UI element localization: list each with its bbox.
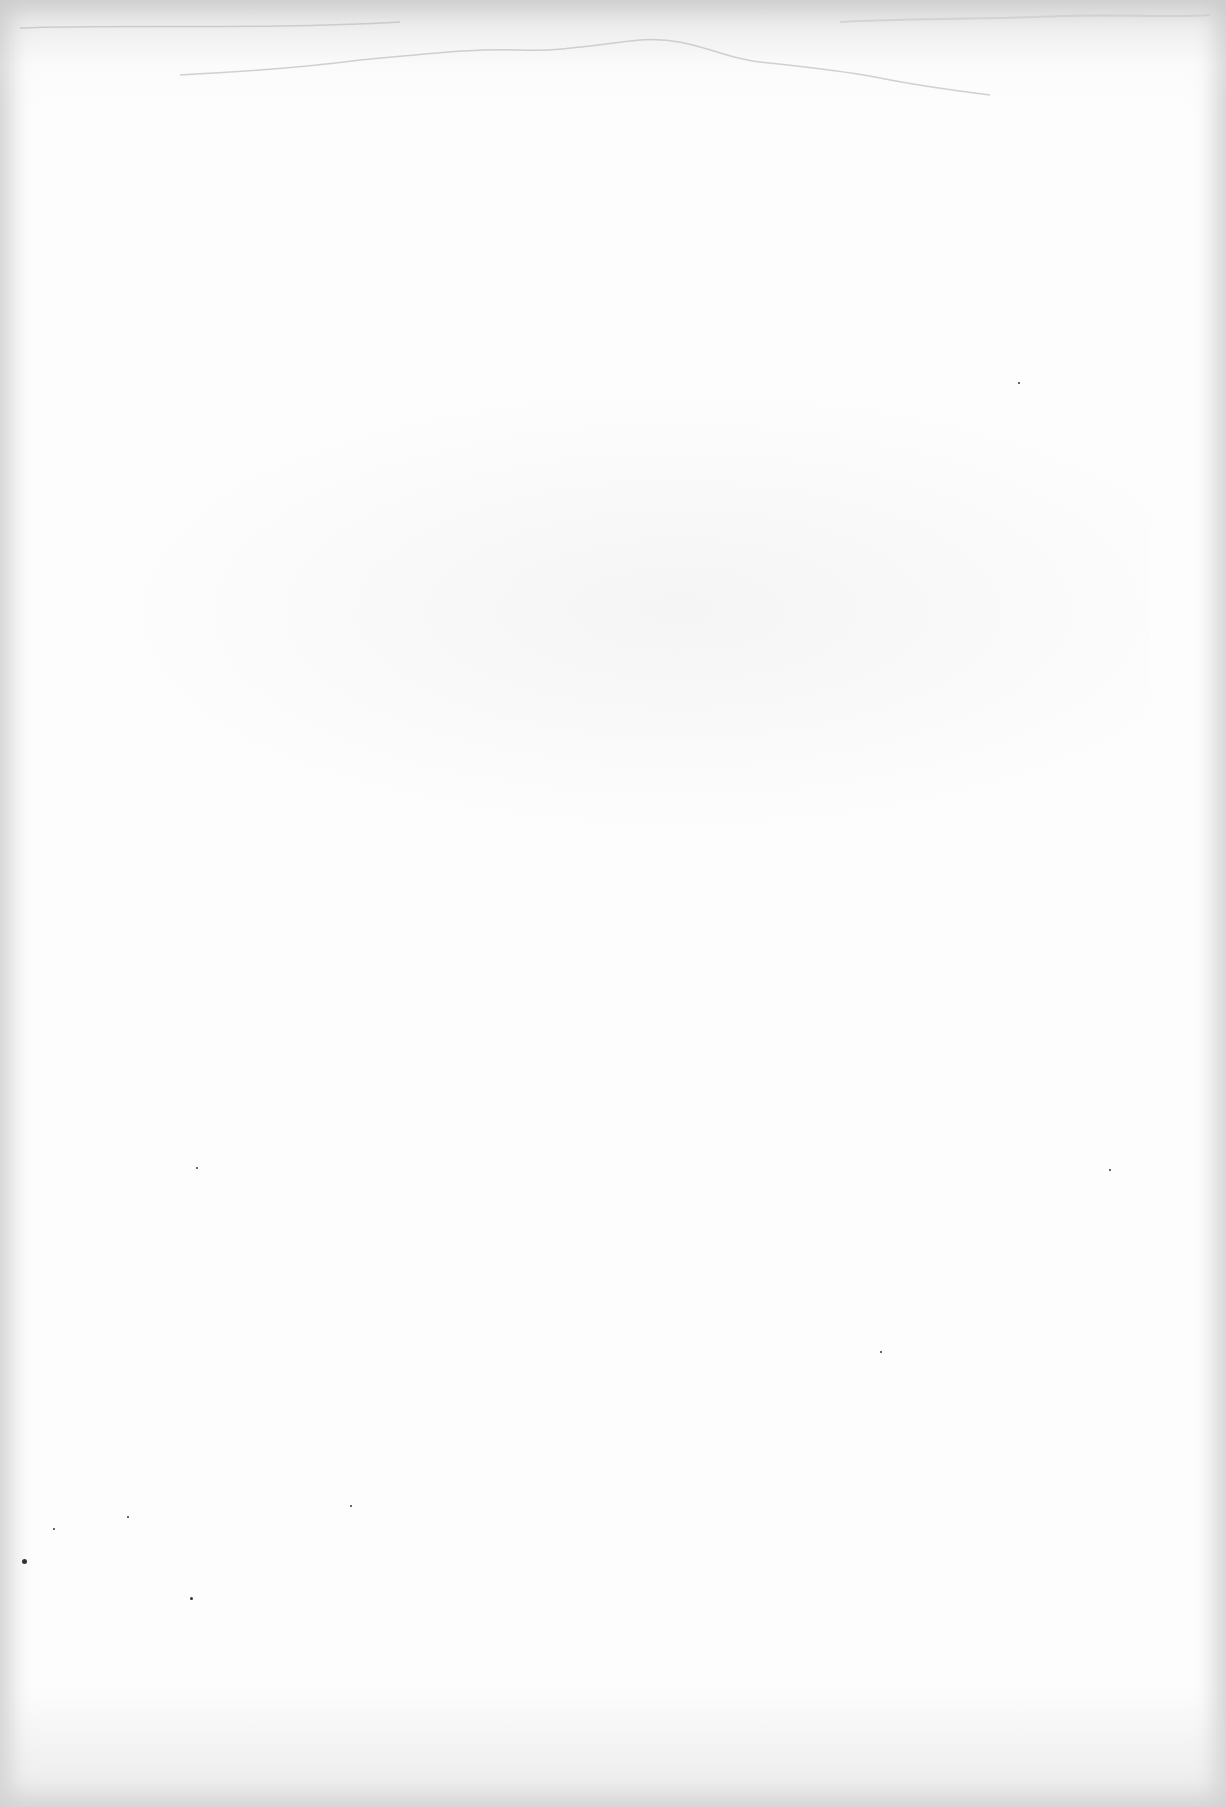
dust-speck (1018, 382, 1020, 384)
dust-speck (127, 1516, 129, 1518)
dust-speck (190, 1597, 193, 1600)
dust-speck (22, 1559, 27, 1564)
dust-speck (53, 1528, 55, 1530)
water-stain-mark (0, 0, 1226, 120)
dust-speck (880, 1351, 882, 1353)
paper-texture (100, 380, 1150, 840)
dust-speck (196, 1167, 198, 1169)
dust-speck (350, 1505, 352, 1507)
scanned-blank-page (0, 0, 1226, 1807)
dust-speck (1109, 1169, 1111, 1171)
